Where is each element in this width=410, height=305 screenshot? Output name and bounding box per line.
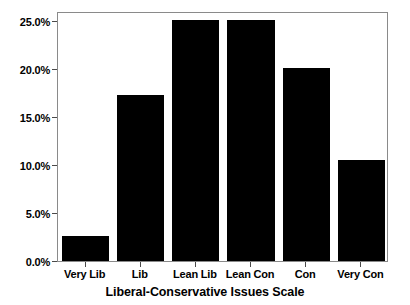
bar[interactable]: [283, 68, 330, 261]
y-axis-tick-label: 0.0%: [26, 256, 50, 268]
x-axis-tick-label: Lib: [132, 268, 148, 280]
bar[interactable]: [338, 160, 385, 261]
y-axis-tick-label: 15.0%: [20, 112, 50, 124]
bar[interactable]: [227, 20, 274, 261]
x-axis-tick-label: Very Con: [337, 268, 383, 280]
plot-area: [57, 12, 388, 262]
bar[interactable]: [117, 95, 164, 261]
x-axis-title: Liberal-Conservative Issues Scale: [0, 285, 410, 299]
x-axis-tick-mark: [360, 262, 361, 267]
x-axis-tick-label: Con: [295, 268, 316, 280]
x-axis-tick-label: Lean Lib: [173, 268, 217, 280]
bar-chart: 0.0%5.0%10.0%15.0%20.0%25.0% Very LibLib…: [0, 0, 410, 305]
x-axis-tick-mark: [140, 262, 141, 267]
y-axis: 0.0%5.0%10.0%15.0%20.0%25.0%: [0, 0, 57, 305]
x-axis-tick-mark: [305, 262, 306, 267]
x-axis-tick-mark: [85, 262, 86, 267]
x-axis-tick-mark: [195, 262, 196, 267]
y-axis-tick-label: 10.0%: [20, 160, 50, 172]
bar[interactable]: [62, 236, 109, 261]
x-axis-tick-mark: [250, 262, 251, 267]
y-axis-tick-label: 5.0%: [26, 208, 50, 220]
bar[interactable]: [172, 20, 219, 261]
x-axis-tick-label: Very Lib: [64, 268, 105, 280]
y-axis-tick-label: 25.0%: [20, 16, 50, 28]
y-axis-tick-label: 20.0%: [20, 64, 50, 76]
bars-layer: [58, 13, 387, 261]
x-axis-tick-label: Lean Con: [226, 268, 275, 280]
